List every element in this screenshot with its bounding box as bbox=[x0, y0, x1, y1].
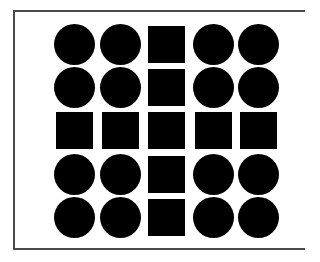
square-shape bbox=[56, 112, 93, 149]
square-shape bbox=[240, 112, 277, 149]
circle-shape bbox=[238, 24, 279, 65]
circle-shape bbox=[238, 197, 279, 238]
square-shape bbox=[148, 112, 185, 149]
circle-shape bbox=[54, 24, 95, 65]
square-shape bbox=[148, 156, 185, 193]
circle-shape bbox=[238, 154, 279, 195]
square-shape bbox=[148, 199, 185, 236]
circle-shape bbox=[238, 67, 279, 108]
circle-shape bbox=[193, 67, 234, 108]
circle-shape bbox=[100, 67, 141, 108]
square-shape bbox=[195, 112, 232, 149]
circle-shape bbox=[100, 197, 141, 238]
circle-shape bbox=[100, 24, 141, 65]
square-shape bbox=[148, 69, 185, 106]
circle-shape bbox=[54, 154, 95, 195]
circle-shape bbox=[193, 154, 234, 195]
circle-shape bbox=[193, 24, 234, 65]
square-shape bbox=[148, 26, 185, 63]
circle-shape bbox=[100, 154, 141, 195]
circle-shape bbox=[54, 67, 95, 108]
circle-shape bbox=[54, 197, 95, 238]
square-shape bbox=[102, 112, 139, 149]
circle-shape bbox=[193, 197, 234, 238]
